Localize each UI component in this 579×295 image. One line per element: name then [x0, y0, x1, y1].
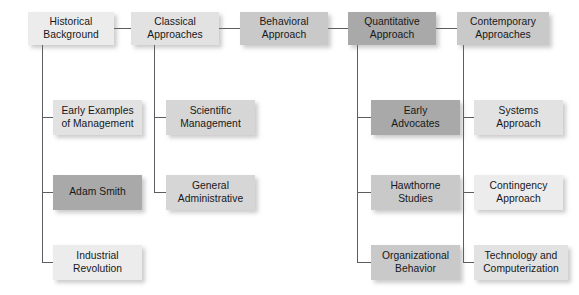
- node-label-early-examples-of-management: Early Examples of Management: [61, 105, 133, 130]
- link-quantitative-contemporary: [436, 28, 457, 29]
- link-historical-classical: [114, 28, 131, 29]
- node-label-undefined: Classical Approaches: [147, 16, 202, 41]
- node-early-advocates: Early Advocates: [371, 100, 460, 135]
- branch-industrial: [42, 262, 53, 263]
- node-label-undefined: Behavioral Approach: [259, 16, 308, 41]
- link-classical-behavioral: [219, 28, 240, 29]
- branch-hawthorne: [357, 192, 371, 193]
- node-label-undefined: Contemporary Approaches: [470, 16, 536, 41]
- node-industrial-revolution: Industrial Revolution: [53, 245, 142, 280]
- node-technology-and-computerization: Technology and Computerization: [474, 245, 568, 280]
- branch-adam-smith: [42, 192, 53, 193]
- branch-technology: [463, 262, 474, 263]
- trunk-quantitative: [357, 45, 358, 263]
- node-header-undefined: Contemporary Approaches: [457, 12, 549, 45]
- branch-general-admin: [154, 192, 166, 193]
- node-label-early-advocates: Early Advocates: [391, 105, 440, 130]
- node-label-technology-and-computerization: Technology and Computerization: [483, 250, 559, 275]
- node-label-industrial-revolution: Industrial Revolution: [73, 250, 122, 275]
- node-label-scientific-management: Scientific Management: [180, 105, 241, 130]
- trunk-historical: [42, 45, 43, 263]
- branch-contingency: [463, 192, 474, 193]
- link-behavioral-quantitative: [328, 28, 348, 29]
- node-header-undefined: Behavioral Approach: [240, 12, 328, 45]
- node-header-undefined: Classical Approaches: [131, 12, 219, 45]
- node-label-undefined: Quantitative Approach: [364, 16, 420, 41]
- branch-early-advocates: [357, 117, 371, 118]
- node-general-administrative: General Administrative: [166, 175, 255, 210]
- branch-scientific: [154, 117, 166, 118]
- node-label-contingency-approach: Contingency Approach: [490, 180, 548, 205]
- branch-organizational: [357, 262, 371, 263]
- node-label-organizational-behavior: Organizational Behavior: [382, 250, 449, 275]
- node-scientific-management: Scientific Management: [166, 100, 255, 135]
- node-organizational-behavior: Organizational Behavior: [371, 245, 460, 280]
- trunk-contemporary: [463, 45, 464, 263]
- node-early-examples-of-management: Early Examples of Management: [53, 100, 142, 135]
- node-label-systems-approach: Systems Approach: [496, 105, 540, 130]
- branch-early-examples: [42, 117, 53, 118]
- node-systems-approach: Systems Approach: [474, 100, 563, 135]
- node-hawthorne-studies: Hawthorne Studies: [371, 175, 460, 210]
- node-label-adam-smith: Adam Smith: [69, 186, 126, 198]
- node-adam-smith: Adam Smith: [53, 175, 142, 210]
- node-label-general-administrative: General Administrative: [178, 180, 243, 205]
- node-header-undefined: Historical Background: [28, 12, 114, 45]
- management-history-diagram: Historical BackgroundEarly Examples of M…: [0, 0, 579, 295]
- node-label-undefined: Historical Background: [43, 16, 98, 41]
- node-contingency-approach: Contingency Approach: [474, 175, 563, 210]
- node-header-undefined: Quantitative Approach: [348, 12, 436, 45]
- branch-systems: [463, 117, 474, 118]
- trunk-classical: [154, 45, 155, 193]
- node-label-hawthorne-studies: Hawthorne Studies: [390, 180, 440, 205]
